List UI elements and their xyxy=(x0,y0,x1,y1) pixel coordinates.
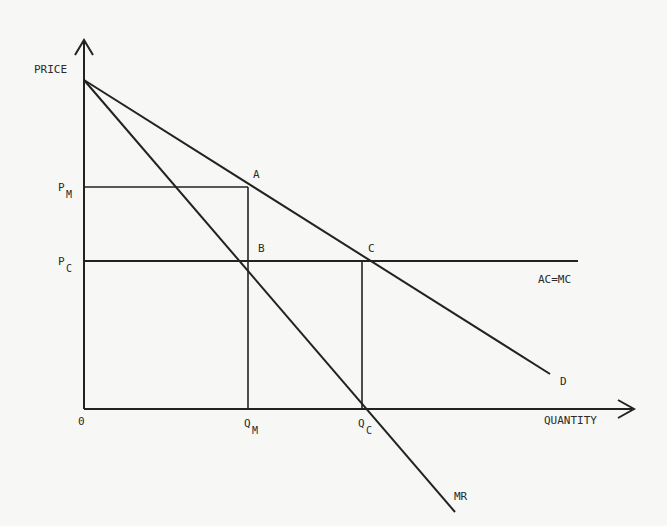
point-b-label: B xyxy=(258,242,265,255)
svg-text:M: M xyxy=(66,189,72,200)
point-a-label: A xyxy=(253,168,260,181)
pm-label: P M xyxy=(58,181,72,200)
svg-text:C: C xyxy=(366,425,372,436)
marginal-revenue-curve xyxy=(84,80,455,512)
cost-line-label: AC=MC xyxy=(538,273,571,286)
x-axis-label: QUANTITY xyxy=(544,414,597,427)
svg-text:C: C xyxy=(66,263,72,274)
qc-label: Q C xyxy=(358,417,372,436)
qm-label: Q M xyxy=(244,417,258,436)
y-axis-label: PRICE xyxy=(34,63,67,76)
marginal-revenue-label: MR xyxy=(454,490,468,503)
svg-text:P: P xyxy=(58,181,65,194)
monopoly-diagram: PRICE QUANTITY 0 P M P C Q M Q C A B C A… xyxy=(0,0,667,526)
svg-text:Q: Q xyxy=(358,417,365,430)
pc-label: P C xyxy=(58,255,72,274)
svg-text:P: P xyxy=(58,255,65,268)
demand-curve-label: D xyxy=(560,375,567,388)
origin-label: 0 xyxy=(78,415,85,428)
point-c-label: C xyxy=(368,242,375,255)
y-axis xyxy=(75,40,93,409)
demand-curve xyxy=(84,80,550,374)
svg-text:M: M xyxy=(252,425,258,436)
svg-text:Q: Q xyxy=(244,417,251,430)
